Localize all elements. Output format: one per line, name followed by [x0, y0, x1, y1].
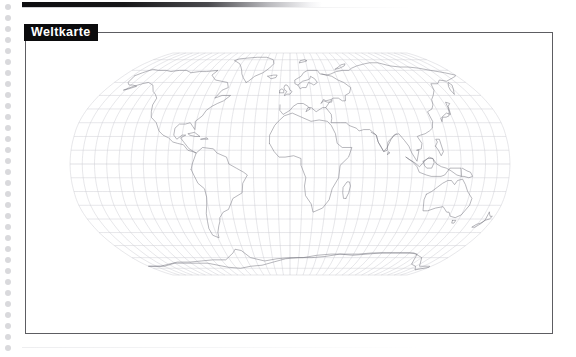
punch-hole-dot: [5, 125, 11, 131]
punch-hole-dot: [5, 257, 11, 263]
coastline-tasmania: [452, 220, 456, 223]
coastline-madagascar: [343, 182, 351, 199]
world-map-svg[interactable]: [26, 33, 552, 333]
coastline-sri-lanka: [388, 152, 390, 155]
punch-hole-dot: [5, 312, 11, 318]
punch-hole-dot: [5, 158, 11, 164]
map-frame: [25, 32, 553, 334]
punch-hole-dot: [5, 224, 11, 230]
coastline-south-america: [191, 147, 247, 237]
punch-hole-dot: [5, 114, 11, 120]
punch-hole-dot: [5, 235, 11, 241]
map-title-tag: Weltkarte: [24, 24, 98, 41]
coastline-philippines: [436, 139, 444, 156]
coastline-indonesia: [406, 157, 462, 176]
footer-hairline: [22, 347, 422, 348]
punch-hole-dot: [5, 81, 11, 87]
coastline-asia: [322, 63, 456, 161]
binding-punch-margin: [0, 0, 20, 357]
punch-hole-dot: [5, 301, 11, 307]
coastline-europe: [280, 70, 351, 114]
punch-hole-dot: [5, 191, 11, 197]
coastline-greenland: [234, 57, 273, 82]
punch-hole-dot: [5, 15, 11, 21]
coastline-group: [123, 57, 492, 270]
punch-hole-dot: [5, 246, 11, 252]
coastline-antarctica: [149, 249, 430, 270]
punch-hole-dot: [5, 103, 11, 109]
coastline-new-zealand: [472, 212, 493, 227]
punch-hole-dot: [5, 180, 11, 186]
punch-hole-dot: [5, 4, 11, 10]
coastline-japan: [441, 102, 451, 121]
map-canvas[interactable]: [26, 33, 552, 333]
punch-hole-dot: [5, 92, 11, 98]
punch-hole-dot: [5, 202, 11, 208]
punch-hole-dot: [5, 290, 11, 296]
document-page: Weltkarte: [0, 0, 576, 357]
coastline-australia: [423, 179, 472, 218]
header-rule-hairline: [22, 7, 412, 8]
coastline-hispaniola: [201, 138, 208, 139]
punch-hole-dot: [5, 59, 11, 65]
punch-hole-dot: [5, 334, 11, 340]
coastline-ireland: [280, 89, 284, 93]
coastline-kamchatka: [448, 82, 454, 94]
punch-hole-dot: [5, 136, 11, 142]
punch-hole-dot: [5, 26, 11, 32]
punch-hole-dot: [5, 169, 11, 175]
punch-hole-dot: [5, 48, 11, 54]
punch-hole-dot: [5, 147, 11, 153]
punch-hole-dot: [5, 279, 11, 285]
coastline-british-isles: [284, 85, 292, 95]
coastline-iceland: [268, 75, 277, 79]
coastline-africa: [269, 113, 351, 212]
punch-hole-dot: [5, 37, 11, 43]
punch-hole-dot: [5, 213, 11, 219]
coastline-novayazemlya: [335, 64, 345, 69]
punch-hole-dot: [5, 345, 11, 351]
coastline-newguineae: [462, 168, 473, 178]
punch-hole-dot: [5, 323, 11, 329]
punch-hole-dot: [5, 70, 11, 76]
coastline-borneo: [423, 158, 434, 168]
punch-hole-dot: [5, 268, 11, 274]
coastline-north-america: [123, 69, 230, 153]
